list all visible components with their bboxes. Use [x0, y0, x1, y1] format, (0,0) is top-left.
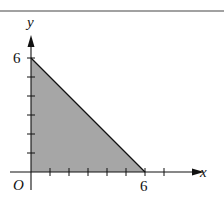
origin-label: O [13, 177, 24, 193]
y-axis-arrow-icon [28, 35, 35, 47]
y-axis-label: y [25, 14, 34, 30]
graph-figure: y x O 6 6 [0, 0, 224, 200]
x-axis-label: x [199, 164, 207, 180]
x-tick-label-6: 6 [140, 178, 148, 194]
y-tick-label-6: 6 [13, 50, 21, 66]
